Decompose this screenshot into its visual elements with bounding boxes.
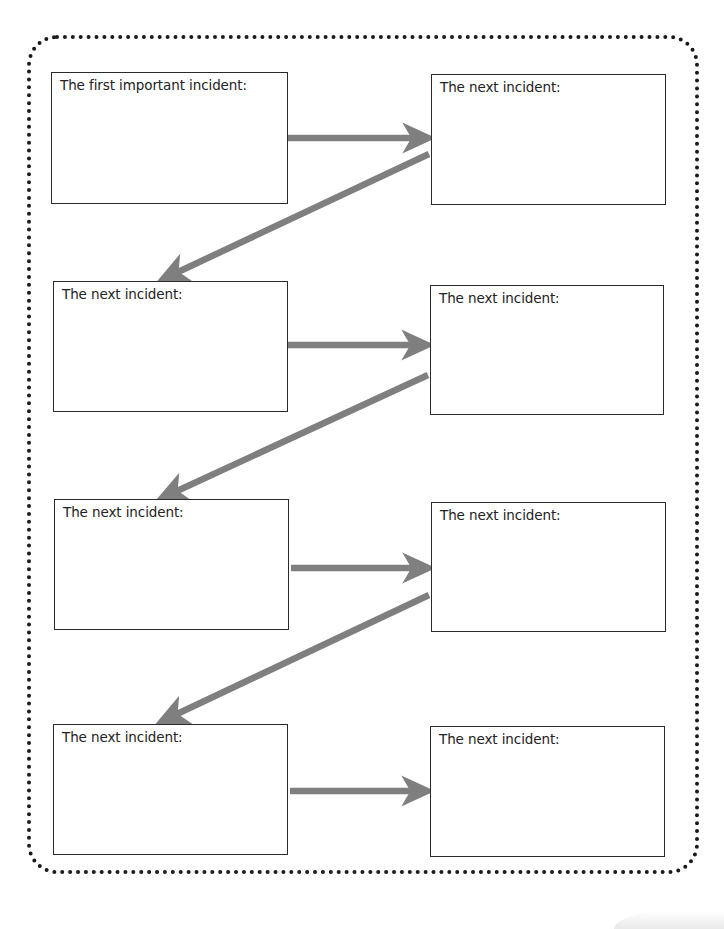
incident-box-label: The next incident: — [440, 79, 561, 95]
incident-box-7[interactable]: The next incident: — [53, 724, 288, 855]
incident-box-8[interactable]: The next incident: — [430, 726, 665, 857]
incident-box-label: The next incident: — [439, 731, 560, 747]
incident-box-label: The next incident: — [439, 290, 560, 306]
incident-box-1[interactable]: The first important incident: — [51, 72, 288, 204]
incident-box-label: The next incident: — [440, 507, 561, 523]
incident-box-4[interactable]: The next incident: — [430, 285, 664, 415]
incident-box-label: The first important incident: — [60, 77, 247, 93]
incident-box-3[interactable]: The next incident: — [53, 281, 288, 412]
incident-box-6[interactable]: The next incident: — [431, 502, 666, 632]
incident-box-label: The next incident: — [63, 504, 184, 520]
incident-box-label: The next incident: — [62, 286, 183, 302]
incident-box-label: The next incident: — [62, 729, 183, 745]
incident-box-5[interactable]: The next incident: — [54, 499, 289, 630]
incident-box-2[interactable]: The next incident: — [431, 74, 666, 205]
